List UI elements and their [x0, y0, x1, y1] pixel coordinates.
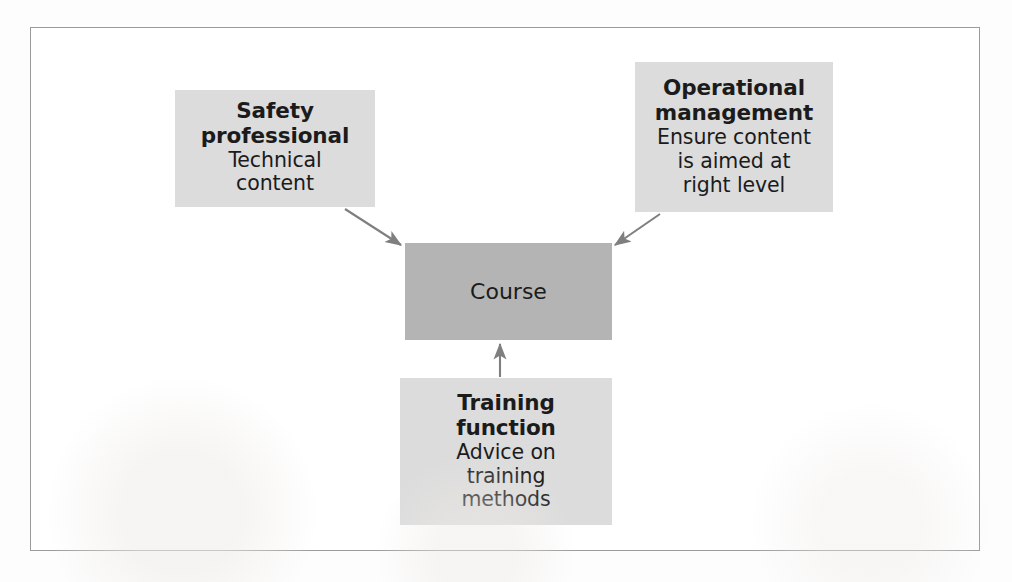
node-course[interactable]: Course	[405, 243, 612, 340]
node-operational-title-line1: Operational	[663, 76, 805, 101]
node-operational-sub-line1: Ensure content	[657, 126, 811, 150]
node-operational-sub-line2: is aimed at	[678, 150, 791, 174]
figure-page: Safety professional Technical content Op…	[0, 0, 1012, 582]
node-operational-title-line2: management	[655, 101, 813, 126]
node-operational-management[interactable]: Operational management Ensure content is…	[635, 62, 833, 212]
node-safety-sub-line2: content	[236, 172, 314, 196]
node-training-sub-line1: Advice on	[456, 441, 556, 465]
node-operational-sub-line3: right level	[683, 174, 785, 198]
node-training-sub-line2: training	[467, 465, 546, 489]
node-training-title-line2: function	[456, 416, 556, 441]
node-training-function[interactable]: Training function Advice on training met…	[400, 378, 612, 525]
node-training-sub-line3: methods	[461, 488, 550, 512]
node-safety-sub-line1: Technical	[228, 149, 321, 173]
arrow-operational-to-course	[615, 214, 660, 245]
arrow-safety-to-course	[345, 209, 401, 245]
node-safety-professional[interactable]: Safety professional Technical content	[175, 90, 375, 207]
node-safety-title-line2: professional	[201, 124, 349, 149]
node-training-title-line1: Training	[457, 391, 554, 416]
node-safety-title-line1: Safety	[236, 99, 314, 124]
node-course-label: Course	[470, 279, 547, 305]
